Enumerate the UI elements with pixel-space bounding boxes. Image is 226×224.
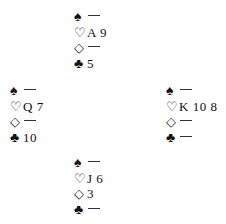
spade-suit-icon: ♠	[166, 83, 179, 99]
heart-suit-icon: ♡	[74, 25, 87, 41]
heart-suit-icon: ♡	[10, 99, 23, 115]
north-hearts-cards: A 9	[87, 25, 107, 41]
west-spades-void-dash	[24, 89, 36, 90]
north-clubs-cards: 5	[87, 56, 94, 72]
south-diamonds-row: ◇3	[74, 186, 103, 202]
west-hand: ♠♡Q 7◇♣10	[10, 83, 44, 145]
club-suit-icon: ♣	[74, 202, 87, 218]
club-suit-icon: ♣	[166, 130, 179, 146]
south-spades-row: ♠	[74, 155, 103, 171]
south-clubs-void-dash	[88, 208, 100, 209]
west-diamonds-row: ◇	[10, 114, 44, 130]
east-diamonds-void-dash	[180, 120, 192, 121]
club-suit-icon: ♣	[10, 130, 23, 146]
east-hearts-row: ♡K 10 8	[166, 99, 217, 115]
diamond-suit-icon: ◇	[10, 114, 23, 130]
east-spades-row: ♠	[166, 83, 217, 99]
south-hand: ♠♡J 6◇3♣	[74, 155, 103, 217]
spade-suit-icon: ♠	[74, 9, 87, 25]
north-hearts-row: ♡A 9	[74, 25, 107, 41]
east-hand: ♠♡K 10 8◇♣	[166, 83, 217, 145]
east-clubs-row: ♣	[166, 130, 217, 146]
diamond-suit-icon: ◇	[166, 114, 179, 130]
south-spades-void-dash	[88, 161, 100, 162]
east-spades-void-dash	[180, 89, 192, 90]
north-diamonds-row: ◇	[74, 40, 107, 56]
west-diamonds-void-dash	[24, 120, 36, 121]
north-diamonds-void-dash	[88, 46, 100, 47]
west-hearts-row: ♡Q 7	[10, 99, 44, 115]
east-clubs-void-dash	[180, 136, 192, 137]
west-hearts-cards: Q 7	[23, 99, 44, 115]
east-hearts-cards: K 10 8	[179, 99, 217, 115]
south-clubs-row: ♣	[74, 202, 103, 218]
west-spades-row: ♠	[10, 83, 44, 99]
north-spades-row: ♠	[74, 9, 107, 25]
north-clubs-row: ♣5	[74, 56, 107, 72]
west-clubs-row: ♣10	[10, 130, 44, 146]
east-diamonds-row: ◇	[166, 114, 217, 130]
diamond-suit-icon: ◇	[74, 186, 87, 202]
club-suit-icon: ♣	[74, 56, 87, 72]
west-clubs-cards: 10	[23, 130, 37, 146]
south-hearts-row: ♡J 6	[74, 171, 103, 187]
heart-suit-icon: ♡	[166, 99, 179, 115]
south-diamonds-cards: 3	[87, 186, 94, 202]
south-hearts-cards: J 6	[87, 171, 103, 187]
north-spades-void-dash	[88, 15, 100, 16]
heart-suit-icon: ♡	[74, 171, 87, 187]
spade-suit-icon: ♠	[10, 83, 23, 99]
diamond-suit-icon: ◇	[74, 40, 87, 56]
spade-suit-icon: ♠	[74, 155, 87, 171]
north-hand: ♠♡A 9◇♣5	[74, 9, 107, 71]
